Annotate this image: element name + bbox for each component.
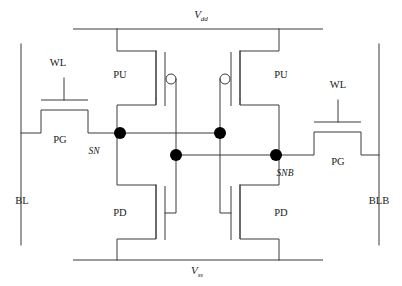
pull-down-right xyxy=(220,133,279,260)
pd-right-gate-net xyxy=(220,133,231,213)
pu-left-source-leg xyxy=(117,29,156,51)
wordline-right-label: WL xyxy=(330,79,346,90)
pull-down-left xyxy=(117,133,176,260)
bl-label: BL xyxy=(15,195,28,206)
vss-label-subscript: ss xyxy=(198,271,204,279)
pu-right-inversion-bubble-icon xyxy=(220,74,230,84)
node-dot-sn-gate xyxy=(170,149,182,161)
node-dot-snb-lower xyxy=(270,149,282,161)
pass-gate-left xyxy=(21,78,120,133)
pg-left-label: PG xyxy=(53,134,67,145)
storage-node-snb-label: SNB xyxy=(277,168,294,178)
pu-right-drain-leg xyxy=(240,99,279,155)
pg-right-channel xyxy=(276,132,379,155)
node-dot-sn-upper xyxy=(114,127,126,139)
pd-right-source-leg xyxy=(240,185,279,260)
vss-label: Vss xyxy=(191,264,203,279)
pd-left-drain-leg xyxy=(117,133,156,185)
node-dot-snb-gate xyxy=(214,127,226,139)
wordline-left-label: WL xyxy=(50,57,66,68)
pass-gate-right xyxy=(276,100,379,155)
pg-left-channel xyxy=(21,110,120,133)
blb-label: BLB xyxy=(369,195,389,206)
pd-left-gate-net xyxy=(165,155,176,213)
pu-left-label: PU xyxy=(113,69,127,80)
pd-left-label: PD xyxy=(113,207,127,218)
pg-right-label: PG xyxy=(331,156,345,167)
storage-node-sn-label: SN xyxy=(88,146,100,156)
pd-left-source-leg xyxy=(117,185,156,260)
vdd-label: Vdd xyxy=(194,8,208,23)
pull-up-left xyxy=(117,29,176,155)
pu-right-label: PU xyxy=(274,69,288,80)
sram-6t-schematic: Vdd Vss BL BLB WL WL PG PG PU PU PD PD S… xyxy=(0,0,402,286)
pd-right-label: PD xyxy=(274,207,288,218)
schematic-canvas: Vdd Vss BL BLB WL WL PG PG PU PU PD PD S… xyxy=(0,0,402,286)
pu-right-source-leg xyxy=(240,29,279,51)
pu-left-inversion-bubble-icon xyxy=(166,74,176,84)
vdd-label-subscript: dd xyxy=(201,15,209,23)
pull-up-right xyxy=(220,29,279,155)
